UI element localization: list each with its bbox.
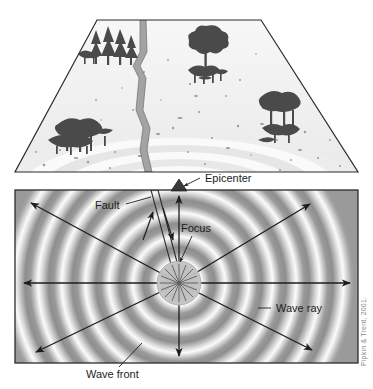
epicenter-label: Epicenter: [205, 172, 252, 184]
figure-root: Epicenter Fault Focus Wave ray Wave fron…: [0, 0, 373, 389]
wave-ray-label: Wave ray: [276, 302, 323, 314]
fault-label: Fault: [95, 199, 119, 211]
block-diagram: Epicenter Fault Focus Wave ray Wave fron…: [0, 0, 373, 389]
wave-front-label: Wave front: [86, 368, 139, 380]
cross-section-front-face: [15, 179, 358, 363]
focus-point: [157, 261, 201, 305]
focus-label: Focus: [181, 222, 211, 234]
epicenter-leader-line: [184, 178, 200, 186]
epicenter-marker: [171, 179, 187, 191]
annotation-epicenter: Epicenter: [184, 172, 252, 186]
credit-block: Pipkin & Trent, 2001.: [360, 297, 368, 366]
source-credit: Pipkin & Trent, 2001.: [360, 297, 368, 366]
focus-starburst: [160, 264, 198, 302]
